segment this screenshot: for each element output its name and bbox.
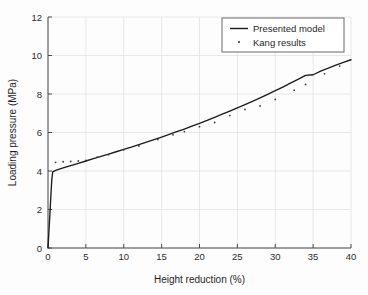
x-tick-label: 35 <box>308 251 319 262</box>
kang-data-point <box>85 160 87 162</box>
kang-data-point <box>138 145 140 147</box>
kang-data-point <box>293 89 295 91</box>
kang-data-point <box>108 154 110 156</box>
kang-data-point <box>55 161 57 163</box>
legend-label-kang-results: Kang results <box>253 37 306 48</box>
y-tick-label: 12 <box>31 12 42 23</box>
kang-data-point <box>183 131 185 133</box>
chart-figure: 0510152025303540 024681012 Height reduct… <box>0 0 368 295</box>
kang-data-point <box>259 105 261 107</box>
kang-data-point <box>244 109 246 111</box>
x-tick-label: 5 <box>83 251 88 262</box>
kang-data-point <box>157 139 159 141</box>
kang-data-point <box>229 115 231 117</box>
kang-data-point <box>62 161 64 163</box>
y-tick-label: 6 <box>37 127 42 138</box>
y-tick-label: 4 <box>37 166 42 177</box>
kang-data-point <box>324 73 326 75</box>
kang-data-point <box>172 134 174 136</box>
kang-data-point <box>274 98 276 100</box>
y-axis-title: Loading pressure (MPa) <box>7 79 18 186</box>
x-tick-label: 40 <box>346 251 357 262</box>
kang-data-point <box>305 83 307 85</box>
kang-data-point <box>96 156 98 158</box>
x-tick-label: 20 <box>194 251 205 262</box>
y-tick-label: 10 <box>31 50 42 61</box>
kang-data-point <box>214 122 216 124</box>
y-tick-label: 2 <box>37 204 42 215</box>
x-tick-label: 25 <box>232 251 243 262</box>
x-axis-title: Height reduction (%) <box>154 274 245 285</box>
legend-label-presented-model: Presented model <box>253 23 325 34</box>
kang-data-point <box>199 126 201 128</box>
x-tick-label: 0 <box>45 251 50 262</box>
x-tick-label: 10 <box>118 251 129 262</box>
loading-pressure-chart: 0510152025303540 024681012 Height reduct… <box>0 0 368 295</box>
legend-dot-swatch <box>238 41 240 43</box>
x-tick-label: 15 <box>156 251 167 262</box>
kang-data-point <box>70 160 72 162</box>
kang-data-point <box>339 65 341 67</box>
chart-legend: Presented model Kang results <box>222 18 344 52</box>
y-tick-label: 0 <box>37 243 42 254</box>
y-tick-label: 8 <box>37 89 42 100</box>
x-tick-label: 30 <box>270 251 281 262</box>
kang-data-point <box>123 149 125 151</box>
kang-data-point <box>77 160 79 162</box>
